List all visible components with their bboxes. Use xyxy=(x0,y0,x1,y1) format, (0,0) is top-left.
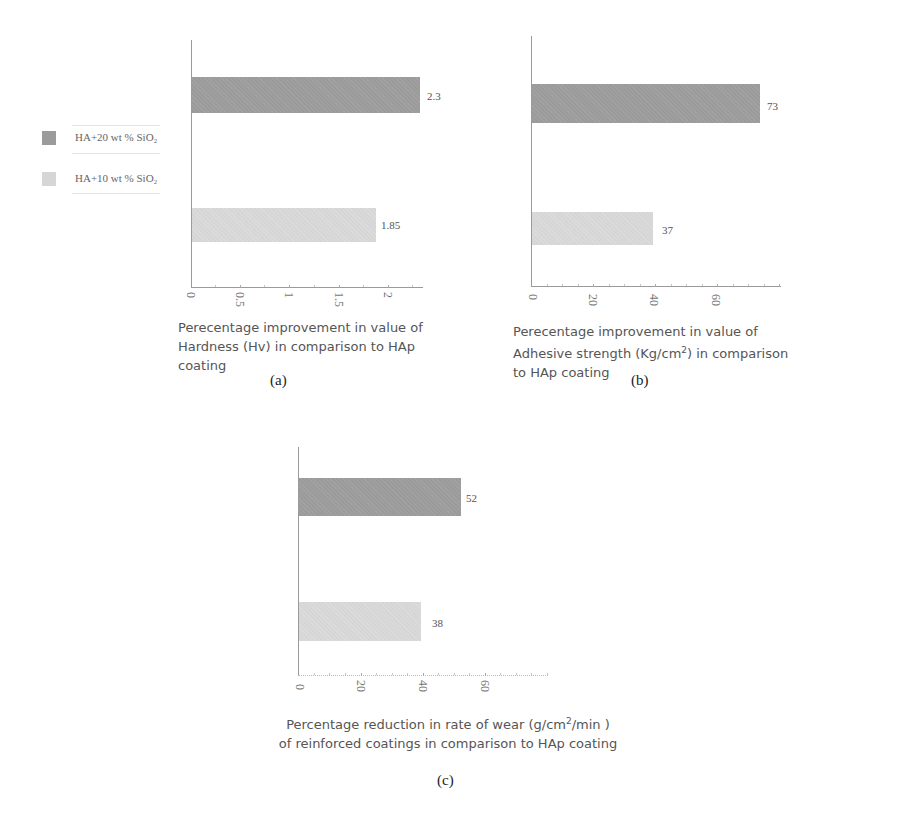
legend-divider xyxy=(72,125,160,126)
bar-20wt xyxy=(299,478,461,516)
caption-b: Perecentage improvement in value of Adhe… xyxy=(513,322,788,382)
bar-10wt xyxy=(192,208,376,242)
panel-label-c: (c) xyxy=(437,772,454,789)
value-label: 37 xyxy=(662,224,673,236)
x-tick-label: 60 xyxy=(477,680,492,692)
legend-divider xyxy=(72,193,160,194)
legend-swatch-10wt xyxy=(42,172,56,186)
bar-20wt xyxy=(532,84,760,123)
x-tick-label: 0 xyxy=(292,684,307,690)
x-tick-label: 60 xyxy=(708,294,723,306)
x-tick-label: 40 xyxy=(415,680,430,692)
value-label: 1.85 xyxy=(381,219,400,231)
x-tick-label: 0 xyxy=(525,294,540,300)
value-label: 52 xyxy=(466,492,477,504)
value-label: 2.3 xyxy=(427,90,441,102)
legend-swatch-20wt xyxy=(42,131,56,145)
x-tick-label: 0.5 xyxy=(232,292,247,307)
x-tick xyxy=(240,285,241,288)
panel-label-a: (a) xyxy=(270,372,287,389)
legend-divider xyxy=(72,153,160,154)
bar-10wt xyxy=(299,602,421,641)
x-tick xyxy=(388,285,389,288)
legend-label-20wt: HA+20 wt % SiO₂ xyxy=(75,131,157,143)
bar-20wt xyxy=(192,77,420,113)
x-axis xyxy=(531,286,781,287)
caption-a: Perecentage improvement in value of Hard… xyxy=(178,318,423,375)
x-tick-label: 1 xyxy=(281,292,296,298)
y-axis xyxy=(531,36,532,286)
value-label: 38 xyxy=(432,617,443,629)
x-tick-label: 1.5 xyxy=(331,292,346,307)
x-tick-label: 40 xyxy=(646,294,661,306)
x-tick xyxy=(339,285,340,288)
panel-label-b: (b) xyxy=(631,372,649,389)
x-tick xyxy=(289,285,290,288)
x-tick-label: 2 xyxy=(380,292,395,298)
bar-10wt xyxy=(532,212,653,245)
value-label: 73 xyxy=(767,100,778,112)
caption-c: Percentage reduction in rate of wear (g/… xyxy=(268,712,628,753)
x-tick-label: 20 xyxy=(353,680,368,692)
x-tick-label: 20 xyxy=(585,294,600,306)
x-tick-label: 0 xyxy=(183,292,198,298)
legend-label-10wt: HA+10 wt % SiO₂ xyxy=(75,172,157,184)
